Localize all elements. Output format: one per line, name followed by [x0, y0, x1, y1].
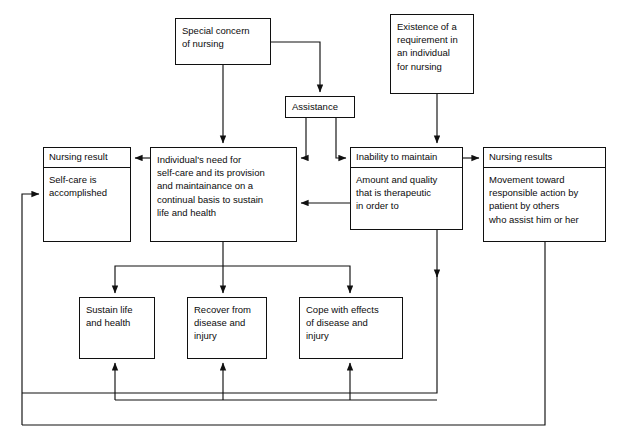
node-nursing-result-left-header: Nursing result [44, 148, 130, 168]
node-existence-requirement-body: Existence of a requirement in an individ… [391, 15, 473, 78]
node-individual-need[interactable]: Individual's need for self-care and its … [150, 147, 297, 242]
node-nursing-results-right[interactable]: Nursing results Movement toward responsi… [483, 147, 606, 242]
text-line: Assistance [292, 100, 348, 113]
node-existence-requirement[interactable]: Existence of a requirement in an individ… [390, 14, 474, 94]
node-inability-maintain[interactable]: Inability to maintain Amount and quality… [350, 147, 463, 230]
text-line: Cope with effects [306, 303, 396, 316]
diagram-canvas: Special concern of nursing Existence of … [0, 0, 624, 446]
text-line: responsible action by [489, 186, 600, 199]
text-line: an individual [397, 46, 467, 59]
text-line: of disease and [306, 316, 396, 329]
edge-assistance-to-individual-need [301, 118, 306, 158]
node-cope-effects-body: Cope with effects of disease and injury [300, 298, 402, 348]
node-inability-maintain-body: Amount and quality that is therapeutic i… [351, 168, 462, 217]
text-line: Movement toward [489, 173, 600, 186]
text-line: Special concern [182, 24, 264, 37]
text-line: in order to [356, 199, 457, 212]
text-line: requirement in [397, 33, 467, 46]
node-special-concern-body: Special concern of nursing [176, 19, 270, 55]
text-line: accomplished [49, 186, 125, 199]
text-line: Existence of a [397, 20, 467, 33]
node-inability-maintain-header: Inability to maintain [351, 148, 462, 168]
text-line: injury [194, 329, 260, 342]
node-cope-effects[interactable]: Cope with effects of disease and injury [299, 297, 403, 359]
node-recover-disease[interactable]: Recover from disease and injury [187, 297, 267, 359]
text-line: Amount and quality [356, 173, 457, 186]
text-line: patient by others [489, 199, 600, 212]
node-assistance[interactable]: Assistance [285, 96, 355, 118]
text-line: that is therapeutic [356, 186, 457, 199]
node-nursing-result-left-body: Self-care is accomplished [44, 168, 130, 203]
text-line: for nursing [397, 60, 467, 73]
text-line: and health [86, 316, 148, 329]
text-line: continual basis to sustain [157, 193, 290, 206]
node-nursing-results-right-body: Movement toward responsible action by pa… [484, 168, 605, 230]
node-recover-disease-body: Recover from disease and injury [188, 298, 266, 348]
node-special-concern[interactable]: Special concern of nursing [175, 18, 271, 65]
edge-assistance-to-inability [336, 118, 346, 158]
text-line: Recover from [194, 303, 260, 316]
edge-individual-need-to-cope-effects [223, 266, 350, 293]
node-nursing-result-left[interactable]: Nursing result Self-care is accomplished [43, 147, 131, 242]
text-line: who assist him or her [489, 213, 600, 226]
text-line: Sustain life [86, 303, 148, 316]
edge-special-concern-to-assistance [271, 42, 320, 92]
text-line: life and health [157, 206, 290, 219]
node-individual-need-body: Individual's need for self-care and its … [151, 148, 296, 224]
text-line: disease and [194, 316, 260, 329]
text-line: Self-care is [49, 173, 125, 186]
node-sustain-life-body: Sustain life and health [80, 298, 154, 334]
edge-left-riser-to-self-care [22, 194, 39, 425]
node-nursing-results-right-header: Nursing results [484, 148, 605, 168]
node-assistance-body: Assistance [286, 97, 354, 116]
text-line: Individual's need for [157, 153, 290, 166]
text-line: self-care and its provision [157, 166, 290, 179]
text-line: of nursing [182, 37, 264, 50]
text-line: injury [306, 329, 396, 342]
node-sustain-life[interactable]: Sustain life and health [79, 297, 155, 359]
text-line: and maintainance on a [157, 179, 290, 192]
edge-individual-need-to-sustain-life [115, 266, 223, 293]
